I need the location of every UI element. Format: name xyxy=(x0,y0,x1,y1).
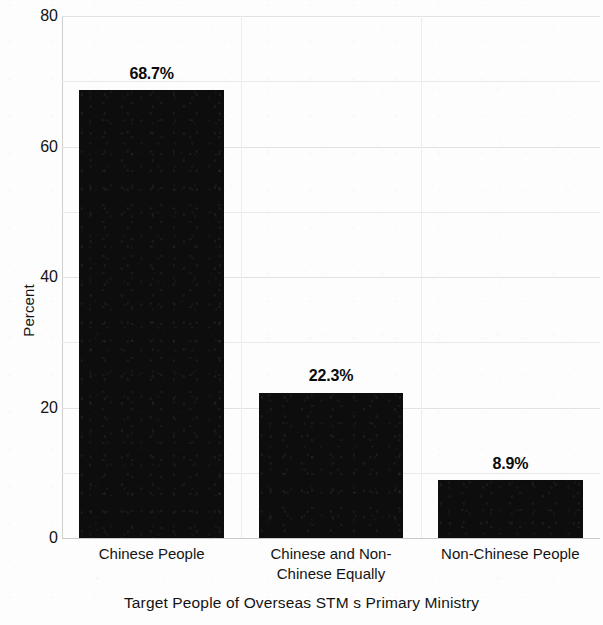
x-axis-line xyxy=(62,538,600,539)
bar-value-label: 22.3% xyxy=(259,367,403,385)
y-tick-label: 20 xyxy=(12,400,58,416)
x-category-label: Non-Chinese People xyxy=(411,544,603,564)
x-category-label-line: Chinese Equally xyxy=(231,564,430,584)
gridline-vertical xyxy=(421,16,422,538)
bar xyxy=(259,393,403,539)
bar-value-label: 68.7% xyxy=(79,65,223,83)
x-category-label-line: Chinese People xyxy=(52,544,251,564)
x-category-label: Chinese People xyxy=(52,544,251,564)
bar xyxy=(438,480,582,538)
bar-value-label: 8.9% xyxy=(438,455,582,473)
y-tick-label: 60 xyxy=(12,139,58,155)
x-category-label: Chinese and Non-Chinese Equally xyxy=(231,544,430,584)
gridline-vertical xyxy=(241,16,242,538)
bar xyxy=(79,90,223,538)
x-category-label-line: Chinese and Non- xyxy=(231,544,430,564)
y-axis-tick-labels: 0 20 40 60 80 xyxy=(0,0,58,625)
bar-chart-figure: Percent 0 20 40 60 80 68.7% 22.3% 8.9% C… xyxy=(0,0,603,625)
y-tick-label: 80 xyxy=(12,8,58,24)
gridline-horizontal xyxy=(62,16,600,17)
y-tick-label: 40 xyxy=(12,269,58,285)
x-category-label-line: Non-Chinese People xyxy=(411,544,603,564)
x-axis-title: Target People of Overseas STM s Primary … xyxy=(0,594,603,612)
